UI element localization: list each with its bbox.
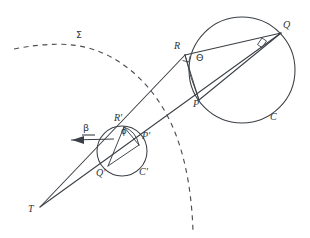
label-sigma: Σ (76, 30, 82, 40)
chord-P-Q (199, 33, 281, 100)
label-P-prime: P' (142, 131, 150, 141)
sigma-curve (14, 44, 193, 232)
label-phi: ϕ (121, 127, 127, 136)
ray-T-R (40, 55, 185, 207)
label-C-prime: C' (139, 167, 148, 177)
label-Q: Q (283, 20, 290, 30)
figure-canvas (0, 0, 310, 238)
label-T: T (28, 204, 34, 214)
label-C: C (270, 112, 277, 122)
beta-arrow-head (72, 136, 84, 144)
label-beta: β (83, 123, 89, 133)
label-R-prime: R' (114, 113, 122, 123)
label-theta: Θ (196, 53, 203, 63)
label-R: R (174, 41, 180, 51)
label-P: P (193, 99, 199, 109)
label-Q-prime: Q' (96, 168, 105, 178)
geometry-figure: Σ Q R Θ P C R' ϕ P' β Q' C' T (0, 0, 310, 238)
ray-T-Q (40, 33, 281, 207)
